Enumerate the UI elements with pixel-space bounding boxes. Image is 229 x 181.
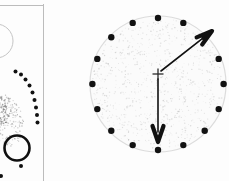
plan-dot-5 (33, 98, 37, 102)
perimeter-dot-10 (108, 128, 114, 134)
perimeter-dot-12 (89, 81, 95, 87)
perimeter-dot-4 (220, 81, 226, 87)
figure-drawing (0, 0, 229, 181)
plan-dot-0 (19, 164, 23, 168)
plan-dot-0 (14, 70, 18, 74)
plan-dot-4 (31, 91, 35, 95)
perimeter-dot-5 (216, 106, 222, 112)
perimeter-dot-6 (202, 128, 208, 134)
perimeter-dot-1 (180, 20, 186, 26)
plan-dot-3 (28, 84, 32, 88)
plan-dot-6 (34, 106, 38, 110)
perimeter-dot-7 (180, 142, 186, 148)
perimeter-dot-11 (94, 106, 100, 112)
perimeter-dot-9 (130, 142, 136, 148)
figure-canvas (0, 0, 229, 181)
perimeter-dot-14 (108, 34, 114, 40)
plan-dot-2 (24, 78, 28, 82)
perimeter-dot-3 (216, 56, 222, 62)
perimeter-dot-13 (94, 56, 100, 62)
perimeter-dot-0 (155, 15, 161, 21)
perimeter-dot-15 (130, 20, 136, 26)
plan-dot-7 (35, 113, 39, 117)
plan-dot-1 (19, 73, 23, 77)
perimeter-dot-8 (155, 147, 161, 153)
plan-dot-8 (36, 121, 40, 125)
main-circular-plan (89, 15, 227, 153)
